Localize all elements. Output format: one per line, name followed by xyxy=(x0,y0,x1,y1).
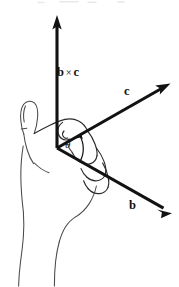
label-vector-b: b xyxy=(129,199,136,212)
cropped-caption-remnant xyxy=(38,2,124,3)
label-b-cross-c-operand-right: c xyxy=(74,65,80,79)
label-b-cross-c: b×c xyxy=(57,66,79,79)
hand-thumb xyxy=(21,101,38,134)
label-vector-c: c xyxy=(124,85,130,98)
figure-canvas xyxy=(0,0,179,287)
hand-outer-edge xyxy=(19,134,34,286)
vector-c xyxy=(57,83,171,148)
hand-wrist xyxy=(54,186,96,286)
cross-operator-icon: × xyxy=(64,67,73,78)
label-angle-theta: θ xyxy=(65,139,70,150)
vector-b xyxy=(57,148,172,218)
hand-illustration xyxy=(19,101,109,286)
vector-b-cross-c xyxy=(52,15,61,148)
cross-product-figure: b×c c b θ xyxy=(0,0,179,287)
